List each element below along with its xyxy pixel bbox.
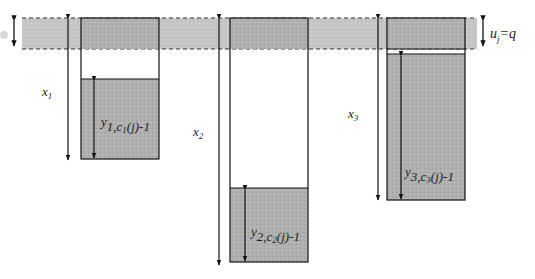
column-2-band-fill [230,18,308,49]
band-label: uj=q [490,26,516,44]
decorative-blob [0,31,8,39]
x3-label: x3 [347,106,359,123]
column-1-band-fill [81,18,159,49]
x2-label: x2 [192,124,204,141]
column-2-item-fill [230,188,308,262]
column-2: x2 y2,c2(j)-1 [192,18,308,265]
x1-label: x1 [41,84,52,101]
column-3-band-fill [387,18,465,49]
stack-diagram: uj=q x1 y1,c1(j)-1 x2 y2,c2(j)-1 [0,0,535,279]
